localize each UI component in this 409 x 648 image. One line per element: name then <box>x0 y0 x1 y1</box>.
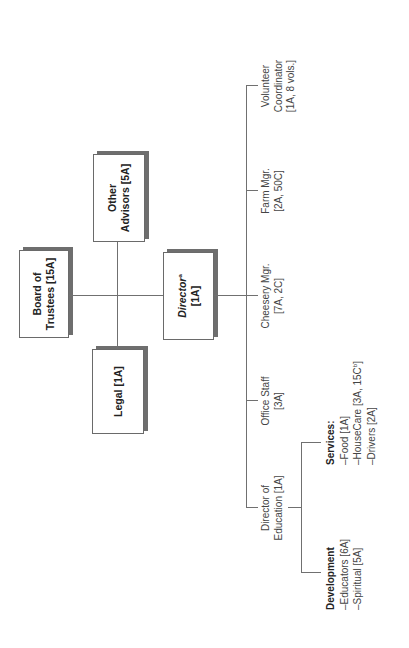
education-bracket <box>301 443 302 573</box>
director-trunk-connector <box>214 295 246 296</box>
director-footnote: a <box>176 274 182 277</box>
tick-volunteer <box>246 85 258 86</box>
tick-cheesery <box>246 295 258 296</box>
branch-farm-mgr: Farm Mgr. [2A, 50C] <box>260 168 285 214</box>
development-item-educators: –Educators [6A] <box>338 539 352 610</box>
director-title: Director <box>176 278 188 318</box>
other-advisors-box: Other Advisors [5A] <box>93 154 145 242</box>
main-trunk <box>246 85 247 508</box>
services-heading: Services: <box>324 361 338 465</box>
services-item-drivers: –Drivers [2A] <box>365 361 379 465</box>
director-line2: [1A] <box>189 286 201 306</box>
org-chart: Board of Trustees [15A] Other Advisors [… <box>0 0 409 648</box>
other-advisors-line2: Advisors [5A] <box>119 164 131 232</box>
branch-director-of-education: Director of Education [1A] <box>260 475 285 540</box>
services-item-housecare: –HouseCare [3A, 15Cb] <box>351 361 365 465</box>
legal-label: Legal [1A] <box>112 366 125 417</box>
other-advisors-line1: Other <box>106 184 118 212</box>
housecare-footnote: b <box>352 364 358 367</box>
branch-volunteer-coordinator: Volunteer Coordinator [1A, 8 vols.] <box>260 60 298 112</box>
board-line2: Trustees [15A] <box>44 258 56 330</box>
development-item-spiritual: –Spiritual [5A] <box>351 539 365 610</box>
director-box: Directora [1A] <box>163 252 214 340</box>
board-line1: Board of <box>31 272 43 315</box>
services-item-food: –Food [1A] <box>338 361 352 465</box>
tick-office <box>246 400 258 401</box>
education-subconnector <box>288 507 301 508</box>
legal-box: Legal [1A] <box>92 349 144 434</box>
tick-farm <box>246 190 258 191</box>
development-heading: Development <box>324 539 338 610</box>
tick-services <box>301 442 321 443</box>
branch-office-staff: Office Staff [3A] <box>260 376 285 425</box>
tick-education <box>246 507 258 508</box>
services-group: Services: –Food [1A] –HouseCare [3A, 15C… <box>324 361 378 465</box>
branch-cheesery-mgr: Cheesery Mgr. [7A, 2C] <box>260 263 285 328</box>
board-director-connector <box>69 295 163 296</box>
board-of-trustees-box: Board of Trustees [15A] <box>19 250 69 338</box>
development-group: Development –Educators [6A] –Spiritual [… <box>324 539 365 610</box>
tick-development <box>301 572 321 573</box>
legal-advisors-connector <box>117 242 118 349</box>
